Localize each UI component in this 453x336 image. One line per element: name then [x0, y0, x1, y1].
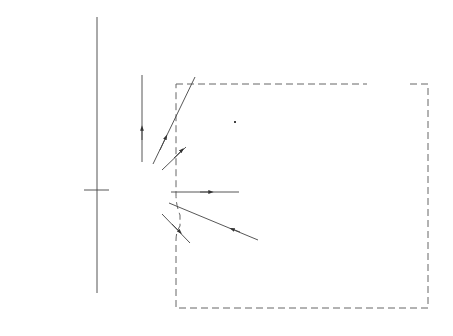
working-capital-boundary [176, 84, 428, 308]
edges [84, 75, 258, 243]
capital-flow-diagram [0, 0, 453, 336]
